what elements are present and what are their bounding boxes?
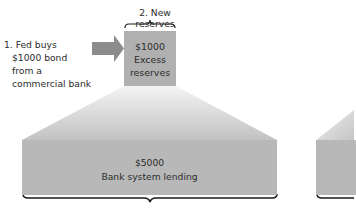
step2-label: 2. New reserves bbox=[120, 7, 190, 29]
lending-label: Bank system lending bbox=[22, 170, 277, 184]
partial-box-right bbox=[316, 140, 356, 195]
step1-label: 1. Fed buys $1000 bond from a commercial… bbox=[4, 38, 91, 90]
excess-reserves-box: $1000 Excess reserves bbox=[124, 31, 176, 86]
reserves-amount: $1000 bbox=[124, 40, 176, 53]
expansion-fan-right bbox=[316, 110, 354, 140]
reserves-line1: Excess bbox=[124, 53, 176, 66]
step1-line-4: commercial bank bbox=[4, 77, 91, 90]
reserves-line2: reserves bbox=[124, 66, 176, 79]
arrow-icon bbox=[92, 35, 124, 62]
lending-amount: $5000 bbox=[22, 156, 277, 170]
bank-lending-box: $5000 Bank system lending bbox=[22, 140, 277, 195]
expansion-fan bbox=[22, 86, 277, 140]
step1-line-2: $1000 bond bbox=[4, 51, 91, 64]
bottom-brace bbox=[23, 194, 277, 202]
step1-line-3: from a bbox=[4, 64, 91, 77]
step1-line-1: 1. Fed buys bbox=[4, 39, 57, 50]
